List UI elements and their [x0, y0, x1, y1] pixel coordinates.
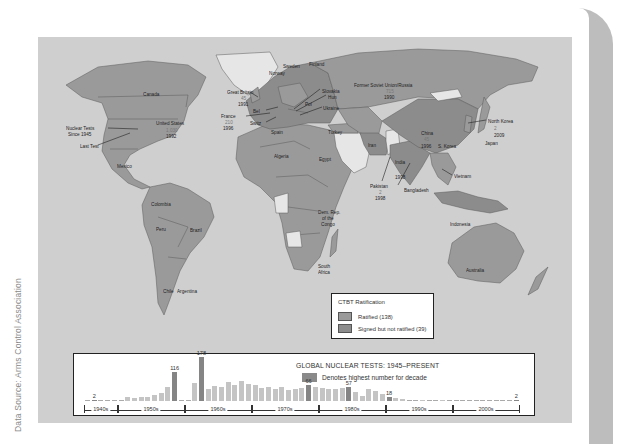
bar-1997 [433, 400, 438, 401]
map-label: 45 [424, 136, 429, 142]
bar-2003 [474, 400, 479, 401]
map-label: 1998 [395, 174, 405, 180]
bar-1958 [172, 372, 177, 401]
bar-1968 [239, 381, 244, 401]
bar-1952 [132, 398, 137, 401]
map-label: Pol [305, 101, 312, 107]
map-label: Brazil [190, 227, 202, 233]
bar-1991 [393, 398, 398, 401]
map-label: Australia [466, 267, 484, 273]
bar-2004 [480, 400, 485, 401]
map-label: 1996 [421, 143, 431, 149]
bar-1973 [273, 389, 278, 401]
map-label: Former Soviet Union/Russia [354, 82, 412, 88]
decade-bracket-1950s: 1950s [118, 405, 185, 413]
decade-label: 1950s [141, 405, 160, 413]
map-label: Indonesia [450, 221, 470, 227]
bar-1961 [192, 383, 197, 401]
world-map [38, 37, 572, 340]
bar-1975 [286, 390, 291, 401]
bar-1945 [85, 400, 90, 401]
map-label: Chile [163, 288, 174, 294]
map-label: Last Test [80, 143, 99, 149]
bar-1948 [105, 400, 110, 401]
map-label: 1998 [375, 195, 385, 201]
decade-label: 1940s [91, 405, 110, 413]
map-label: Bel [253, 108, 260, 114]
signed-swatch [338, 324, 352, 333]
legend-item-signed: Signed but not ratified (39) [338, 324, 426, 333]
map-label: Iran [368, 142, 376, 148]
map-label: Mexico [117, 163, 132, 169]
map-label: Switz [250, 120, 261, 126]
bar-1983 [340, 388, 345, 401]
bar-value-label: 116 [170, 365, 179, 371]
bar-1981 [326, 389, 331, 401]
bar-1963 [206, 389, 211, 401]
map-label: Finland [309, 61, 324, 67]
map-label: North Korea [488, 118, 513, 124]
bar-1972 [266, 387, 271, 401]
map-label: Bangladesh [404, 187, 429, 193]
ratified-swatch [338, 312, 352, 321]
legend-item-ratified: Ratified (138) [338, 312, 393, 321]
bar-1989 [380, 394, 385, 401]
bar-1964 [212, 386, 217, 401]
map-label: Ukraine [323, 105, 339, 111]
map-label: Africa [318, 269, 330, 275]
map-label: Spain [271, 129, 283, 135]
map-label: Congo [321, 221, 335, 227]
bar-1980 [320, 388, 325, 401]
bar-2005 [487, 400, 492, 401]
map-label: Since 1945 [68, 131, 91, 137]
bar-1954 [145, 397, 150, 401]
decade-bracket-1970s: 1970s [252, 405, 319, 413]
bar-value-label: 2 [515, 393, 518, 399]
bar-1953 [139, 397, 144, 401]
map-label: Algeria [274, 153, 289, 159]
bar-1957 [165, 387, 170, 401]
bar-1962 [199, 357, 204, 401]
decade-label: 2000s [476, 405, 495, 413]
map-label: Peru [156, 226, 166, 232]
map-label: India [395, 159, 405, 165]
bar-1999 [447, 400, 452, 401]
bar-2006 [494, 400, 499, 401]
figure-panel: CanadaUnited States1,0301992Nuclear Test… [38, 37, 572, 423]
map-label: 1992 [166, 133, 176, 139]
bar-1949 [112, 400, 117, 401]
page-edge-gap [575, 8, 589, 444]
bar-1971 [259, 388, 264, 401]
legend-title: CTBT Ratification [338, 299, 385, 305]
decade-label: 1970s [275, 405, 294, 413]
map-label: 1990 [384, 94, 394, 100]
bar-1966 [226, 382, 231, 401]
bar-1970 [253, 385, 258, 401]
map-label: Turkey [328, 129, 342, 135]
map-label: Egypt [319, 156, 331, 162]
map-label: United States [156, 120, 184, 126]
map-label: Colombia [151, 201, 171, 207]
decade-label: 1980s [342, 405, 361, 413]
decade-bracket-1960s: 1960s [185, 405, 252, 413]
map-label: Japan [485, 140, 498, 146]
bar-1979 [313, 387, 318, 401]
bar-1951 [125, 397, 130, 401]
bar-value-label: 57 [346, 380, 352, 386]
bar-value-label: 66 [305, 378, 311, 384]
bar-1947 [98, 400, 103, 401]
nuclear-tests-chart: GLOBAL NUCLEAR TESTS: 1945–PRESENT Denot… [73, 353, 535, 416]
decade-bracket-2000s: 2000s [453, 405, 520, 413]
bar-1985 [353, 392, 358, 401]
map-label: 2009 [494, 132, 504, 138]
bar-2000 [454, 400, 459, 401]
map-label: Norway [269, 70, 285, 76]
decade-bracket-1980s: 1980s [319, 405, 386, 413]
bar-2008 [507, 400, 512, 401]
bar-1982 [333, 389, 338, 401]
bar-1950 [119, 400, 124, 401]
bar-value-label: 178 [197, 350, 206, 356]
bar-1976 [293, 389, 298, 401]
decade-bracket-1990s: 1990s [386, 405, 453, 413]
map-label: Sweden [283, 63, 300, 69]
